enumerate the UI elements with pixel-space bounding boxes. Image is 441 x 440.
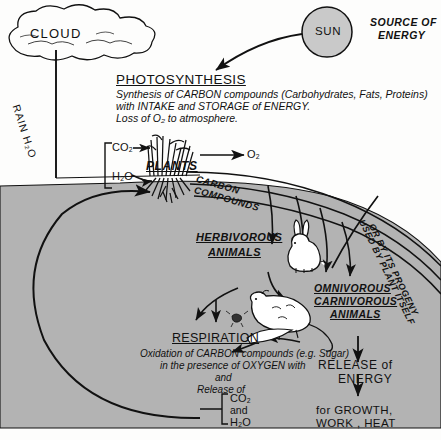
omnicarni-line1: OMNIVOROUS xyxy=(314,282,391,294)
respiration-line3: and xyxy=(215,372,232,383)
co2-input-label: CO₂ xyxy=(112,141,133,153)
respiration-line2: in the presence of OXYGEN with xyxy=(160,360,306,371)
outputs-line2: WORK , HEAT xyxy=(316,417,396,429)
sun-caption-line2: ENERGY xyxy=(378,29,425,41)
o2-output-label: O₂ xyxy=(247,148,260,160)
h2o-input-label: H₂O xyxy=(112,170,133,182)
outputs-line1: for GROWTH, xyxy=(316,404,393,416)
sun-label: SUN xyxy=(315,25,341,37)
release-and-label: and xyxy=(230,404,248,416)
omnicarni-line3: ANIMALS xyxy=(330,308,381,320)
herbivores-line1: HERBIVOROUS xyxy=(196,231,282,243)
omnicarni-line2: CARNIVOROUS xyxy=(314,295,397,307)
carbon-cycle-diagram: CLOUD SUN SOURCE OF ENERGY RAIN H₂O PHOT… xyxy=(0,0,441,440)
respiration-heading: RESPIRATION xyxy=(172,331,259,345)
photosynthesis-heading: PHOTOSYNTHESIS xyxy=(116,72,246,87)
sun-energy-arrow xyxy=(216,34,302,70)
photosynthesis-line1: Synthesis of CARBON compounds (Carbohydr… xyxy=(116,88,428,100)
plant-input-bracket xyxy=(105,143,112,188)
sun-caption-line1: SOURCE OF xyxy=(370,16,437,28)
release-co2-label: CO₂ xyxy=(230,392,251,404)
photosynthesis-line3: Loss of O₂ to atmosphere. xyxy=(116,112,238,124)
herbivores-line2: ANIMALS xyxy=(208,246,261,258)
release-energy-line2: ENERGY xyxy=(338,372,392,386)
release-h2o-label: H₂O xyxy=(230,416,251,428)
plants-label: PLANTS xyxy=(146,159,198,173)
cloud-label: CLOUD xyxy=(30,26,82,41)
photosynthesis-line2: with INTAKE and STORAGE of ENERGY. xyxy=(116,100,310,112)
release-energy-line1: RELEASE of xyxy=(318,358,393,372)
